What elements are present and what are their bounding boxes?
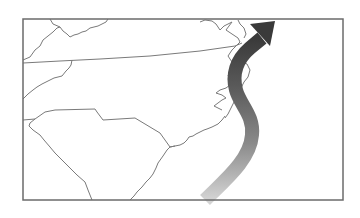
- state-borders: [23, 19, 250, 200]
- arrow-shaft: [205, 38, 262, 200]
- west-virginia-virginia-border: [50, 19, 108, 37]
- delmarva-coast: [238, 20, 246, 38]
- south-carolina-georgia-border: [29, 119, 92, 200]
- north-carolina-coast: [170, 116, 225, 147]
- south-carolina-coast: [130, 147, 170, 200]
- tennessee-north-carolina-border: [23, 60, 72, 99]
- kentucky-virginia-border: [23, 27, 60, 60]
- virginia-north-carolina-border: [23, 43, 242, 63]
- map-svg: [0, 0, 360, 218]
- map-container: [0, 0, 360, 218]
- maryland-virginia-detail: [200, 20, 220, 30]
- north-carolina-south-carolina-border: [23, 109, 175, 147]
- storm-track-arrow: [205, 21, 275, 200]
